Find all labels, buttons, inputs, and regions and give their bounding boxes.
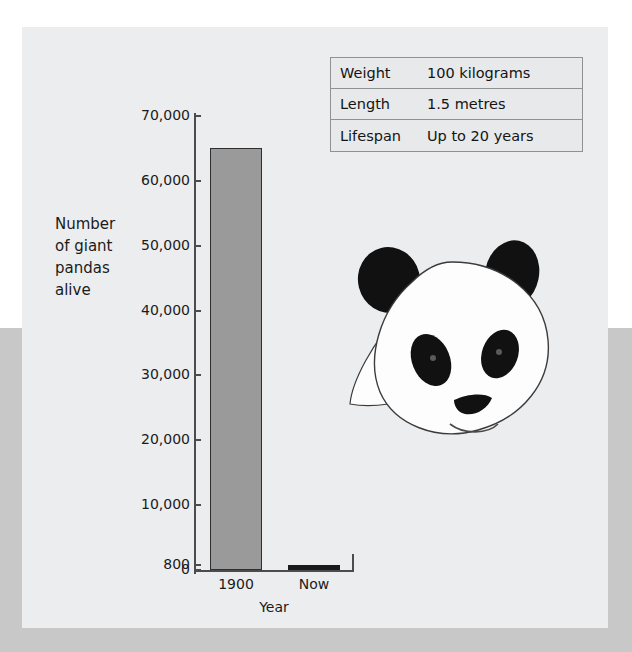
y-axis-tick-label: 40,000 [110,302,190,318]
y-axis-title: Number of giant pandas alive [55,213,160,301]
x-axis-line [194,570,354,572]
y-axis-tick-label: 70,000 [110,107,190,123]
y-axis-tick-label: 20,000 [110,431,190,447]
bar-now [288,565,340,570]
bar-1900 [210,148,262,570]
y-axis-tick [194,245,201,247]
y-axis-tick [194,310,201,312]
y-axis-tick-label-wrap: 10,000 [104,496,190,512]
x-axis-tick-label: 1900 [197,576,275,592]
y-axis-tick-label-wrap: 20,000 [104,431,190,447]
panda-left-eye-icon [430,355,436,361]
y-axis-tick-label: 30,000 [110,366,190,382]
content-panel: Weight 100 kilograms Length 1.5 metres L… [22,27,608,628]
y-axis-tick-label: 50,000 [110,237,190,253]
y-axis-tick-label-wrap: 30,000 [104,366,190,382]
y-axis-tick [194,439,201,441]
y-axis-tick-label: 10,000 [110,496,190,512]
y-axis-tick [194,115,201,117]
x-axis-end-cap [352,554,354,572]
y-axis-tick-label-wrap: 40,000 [104,302,190,318]
y-axis-title-line: Number [55,213,160,235]
y-axis-tick-label-wrap: 50,000 [104,237,190,253]
y-axis-tick-label: 60,000 [110,172,190,188]
y-axis-tick [194,569,201,571]
panda-right-eye-icon [496,349,502,355]
x-axis-title: Year [194,599,354,615]
y-axis-tick [194,564,201,566]
x-axis-tick-label: Now [275,576,353,592]
y-axis-title-line: alive [55,279,160,301]
panda-svg [332,232,572,452]
y-axis-tick-label-wrap: 800 [104,556,190,572]
giant-panda-head-illustration [332,232,572,452]
y-axis-tick-label-wrap: 70,000 [104,107,190,123]
y-axis-tick [194,504,201,506]
y-axis-tick [194,180,201,182]
y-axis-tick [194,374,201,376]
y-axis-title-line: pandas [55,257,160,279]
y-axis-tick-label: 800 [110,556,190,572]
y-axis-tick-label-wrap: 60,000 [104,172,190,188]
